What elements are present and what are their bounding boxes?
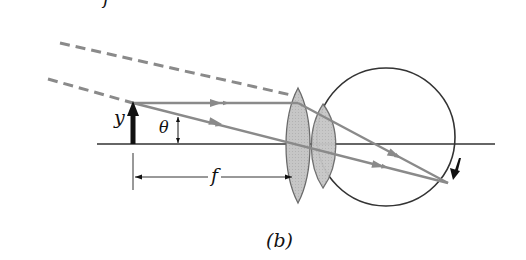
- eye-outline: [317, 68, 455, 206]
- magnifier-eye-diagram: f y θ f (b): [0, 0, 526, 260]
- object-height-label: y: [114, 108, 125, 127]
- dashed-ray-lower: [48, 79, 133, 103]
- retina-image: [450, 158, 461, 180]
- top-fragment-label: f: [103, 0, 110, 7]
- focal-length-label: f: [208, 166, 221, 185]
- panel-label: (b): [266, 231, 293, 250]
- object-arrow: [127, 101, 139, 144]
- dashed-ray-upper: [60, 43, 300, 97]
- diagram-canvas: [0, 0, 526, 260]
- angle-label: θ: [159, 120, 169, 136]
- dashed-rays: [48, 43, 300, 103]
